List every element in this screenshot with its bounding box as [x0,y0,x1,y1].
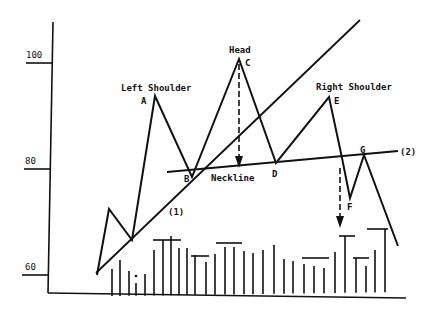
trendline-2-label: (2) [400,147,416,157]
head-and-shoulders-chart: 100 80 60 Left Shoulder Head Right Shoul… [0,0,439,320]
x-axis [48,293,406,298]
trendline-1-label: (1) [168,207,184,217]
neckline-label: Neckline [211,173,255,183]
point-label-d: D [272,169,278,179]
trendline-1 [96,20,360,273]
tick-label-100: 100 [26,50,42,60]
volume-bars [112,229,388,296]
point-label-e: E [334,96,339,106]
point-label-b: B [184,174,190,184]
volume-dot [135,275,138,278]
tick-label-60: 60 [25,262,36,272]
right-shoulder-label: Right Shoulder [316,82,392,92]
left-shoulder-label: Left Shoulder [121,83,192,93]
head-label: Head [229,45,251,55]
point-label-f: F [347,202,352,212]
point-label-c: C [245,58,250,68]
arrowhead-icon [336,216,344,228]
tick-label-80: 80 [25,156,36,166]
point-label-g: G [360,145,365,155]
point-label-a: A [141,96,147,106]
